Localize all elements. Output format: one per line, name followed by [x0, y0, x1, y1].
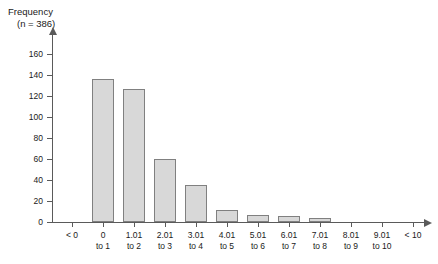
- x-axis-tick: [320, 222, 321, 227]
- x-label-line-1: < 10: [396, 230, 430, 241]
- x-label-line-2: to 6: [241, 241, 275, 252]
- x-label-line-2: to 4: [179, 241, 213, 252]
- bar-slot: [150, 30, 181, 222]
- x-label-line-1: 7.01: [303, 230, 337, 241]
- y-axis-tick-label: 60: [34, 155, 43, 164]
- x-axis-tick-label: 9.01to 10: [365, 230, 399, 251]
- y-axis-tick-label: 0: [38, 218, 43, 227]
- x-axis-tick: [134, 222, 135, 227]
- x-label-line-1: 3.01: [179, 230, 213, 241]
- x-axis-tick: [351, 222, 352, 227]
- histogram-chart: Frequency (n = 386) 02040608010012014016…: [0, 0, 438, 264]
- bar-slot: [336, 30, 367, 222]
- x-axis-tick: [165, 222, 166, 227]
- x-label-line-1: 5.01: [241, 230, 275, 241]
- x-label-line-1: 8.01: [334, 230, 368, 241]
- x-axis-tick-label: 1.01to 2: [117, 230, 151, 251]
- bar-slot: [57, 30, 88, 222]
- y-axis-tick-label: 40: [34, 176, 43, 185]
- bar-slot: [88, 30, 119, 222]
- bar-slot: [398, 30, 429, 222]
- bar: [123, 89, 145, 222]
- x-label-line-1: 0: [86, 230, 120, 241]
- bar: [216, 210, 238, 222]
- x-label-line-2: to 9: [334, 241, 368, 252]
- x-label-line-1: 9.01: [365, 230, 399, 241]
- x-axis-tick-label: < 10: [396, 230, 430, 241]
- bar-slot: [181, 30, 212, 222]
- x-axis-tick: [413, 222, 414, 227]
- x-label-line-1: 1.01: [117, 230, 151, 241]
- x-label-line-1: 6.01: [272, 230, 306, 241]
- x-label-line-1: < 0: [55, 230, 89, 241]
- x-axis-tick: [227, 222, 228, 227]
- bar: [154, 159, 176, 222]
- x-axis-tick: [289, 222, 290, 227]
- y-axis-tick-label: 160: [29, 50, 43, 59]
- y-axis-scale: 020406080100120140160: [0, 0, 52, 264]
- bar-series: [52, 30, 424, 222]
- x-axis-tick-label: 0to 1: [86, 230, 120, 251]
- x-label-line-2: to 5: [210, 241, 244, 252]
- y-axis-tick-label: 20: [34, 197, 43, 206]
- x-axis-tick-label: 5.01to 6: [241, 230, 275, 251]
- x-axis-tick-label: < 0: [55, 230, 89, 241]
- bar-slot: [274, 30, 305, 222]
- x-axis-tick: [196, 222, 197, 227]
- y-axis-tick-label: 80: [34, 134, 43, 143]
- x-axis-tick-label: 8.01to 9: [334, 230, 368, 251]
- y-axis-tick-label: 120: [29, 92, 43, 101]
- bar-slot: [305, 30, 336, 222]
- bar-slot: [367, 30, 398, 222]
- x-axis-tick-label: 2.01to 3: [148, 230, 182, 251]
- x-label-line-2: to 3: [148, 241, 182, 252]
- x-label-line-2: to 1: [86, 241, 120, 252]
- bar-slot: [243, 30, 274, 222]
- bar: [185, 185, 207, 222]
- x-label-line-2: to 7: [272, 241, 306, 252]
- x-axis-tick-label: 6.01to 7: [272, 230, 306, 251]
- x-label-line-2: to 10: [365, 241, 399, 252]
- y-axis-tick-label: 100: [29, 113, 43, 122]
- x-axis-scale: < 00to 11.01to 22.01to 33.01to 44.01to 5…: [52, 222, 424, 264]
- bar-slot: [212, 30, 243, 222]
- bar-slot: [119, 30, 150, 222]
- x-label-line-2: to 2: [117, 241, 151, 252]
- bar: [92, 79, 114, 222]
- x-axis-tick: [72, 222, 73, 227]
- x-axis-tick-label: 4.01to 5: [210, 230, 244, 251]
- x-label-line-1: 2.01: [148, 230, 182, 241]
- x-label-line-1: 4.01: [210, 230, 244, 241]
- x-axis-tick: [258, 222, 259, 227]
- x-axis-tick: [103, 222, 104, 227]
- y-axis-tick-label: 140: [29, 71, 43, 80]
- x-label-line-2: to 8: [303, 241, 337, 252]
- x-axis-tick-label: 7.01to 8: [303, 230, 337, 251]
- x-axis-tick: [382, 222, 383, 227]
- bar: [247, 215, 269, 222]
- x-axis-tick-label: 3.01to 4: [179, 230, 213, 251]
